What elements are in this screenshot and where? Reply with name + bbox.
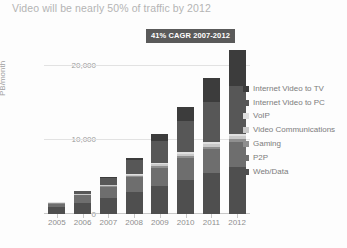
bar-segment[interactable]	[177, 107, 194, 121]
legend-item[interactable]: Gaming	[243, 137, 347, 151]
stacked-bar[interactable]	[126, 158, 143, 214]
bar-segment[interactable]	[203, 102, 220, 142]
y-axis-title: PB/month	[0, 61, 7, 96]
bar-segment[interactable]	[126, 160, 143, 173]
bar-segment[interactable]	[100, 178, 117, 185]
legend-item[interactable]: Web/Data	[243, 165, 347, 179]
legend-label: Internet Video to PC	[253, 99, 325, 107]
legend-item[interactable]: P2P	[243, 151, 347, 165]
legend-item[interactable]: Internet Video to TV	[243, 82, 347, 96]
x-axis-tick-label: 2008	[121, 218, 147, 232]
bar-slot-2010[interactable]	[173, 50, 199, 214]
bar-segment[interactable]	[177, 158, 194, 180]
x-axis-tick-label: 2011	[199, 218, 225, 232]
bar-segment[interactable]	[177, 180, 194, 214]
legend-swatch-icon	[243, 86, 249, 92]
bar-segment[interactable]	[203, 78, 220, 102]
bar-segment[interactable]	[74, 195, 91, 202]
bar-series-group	[44, 50, 250, 214]
chart-container: Video will be nearly 50% of traffic by 2…	[0, 0, 347, 248]
bar-segment[interactable]	[151, 168, 168, 187]
bar-slot-2007[interactable]	[96, 50, 122, 214]
legend-swatch-icon	[243, 113, 249, 119]
bar-slot-2009[interactable]	[147, 50, 173, 214]
legend-swatch-icon	[243, 127, 249, 133]
bar-segment[interactable]	[177, 121, 194, 152]
legend-swatch-icon	[243, 100, 249, 106]
bar-slot-2006[interactable]	[70, 50, 96, 214]
bar-slot-2005[interactable]	[44, 50, 70, 214]
legend-label: P2P	[253, 154, 268, 162]
stacked-bar[interactable]	[203, 78, 220, 214]
stacked-bar[interactable]	[100, 177, 117, 214]
legend-label: Video Communications	[253, 126, 335, 134]
bar-segment[interactable]	[151, 141, 168, 163]
x-axis-tick-label: 2006	[70, 218, 96, 232]
bar-slot-2008[interactable]	[121, 50, 147, 214]
stacked-bar[interactable]	[48, 202, 65, 214]
bar-segment[interactable]	[126, 192, 143, 214]
chart-legend: Internet Video to TVInternet Video to PC…	[243, 82, 347, 179]
bar-segment[interactable]	[229, 50, 246, 87]
bar-segment[interactable]	[74, 203, 91, 214]
cagr-annotation-badge: 41% CAGR 2007-2012	[146, 29, 235, 43]
bar-segment[interactable]	[48, 207, 65, 214]
bar-segment[interactable]	[151, 134, 168, 141]
plot-area	[44, 50, 250, 214]
legend-label: Internet Video to TV	[253, 85, 324, 93]
legend-label: VoIP	[253, 112, 270, 120]
bar-segment[interactable]	[203, 149, 220, 173]
x-axis-tick-label: 2010	[173, 218, 199, 232]
x-axis-tick-label: 2005	[44, 218, 70, 232]
chart-title: Video will be nearly 50% of traffic by 2…	[12, 2, 211, 14]
bar-slot-2011[interactable]	[199, 50, 225, 214]
legend-swatch-icon	[243, 169, 249, 175]
bar-segment[interactable]	[100, 198, 117, 214]
x-axis-tick-label: 2007	[96, 218, 122, 232]
bar-segment[interactable]	[203, 173, 220, 214]
bar-segment[interactable]	[126, 177, 143, 192]
bar-segment[interactable]	[151, 186, 168, 214]
x-axis-tick-labels: 20052006200720082009201020112012	[44, 218, 250, 232]
legend-label: Web/Data	[253, 168, 288, 176]
stacked-bar[interactable]	[177, 107, 194, 214]
legend-swatch-icon	[243, 141, 249, 147]
legend-label: Gaming	[253, 140, 281, 148]
legend-item[interactable]: Video Communications	[243, 123, 347, 137]
legend-swatch-icon	[243, 155, 249, 161]
legend-item[interactable]: VoIP	[243, 110, 347, 124]
stacked-bar[interactable]	[74, 191, 91, 214]
x-axis-tick-label: 2009	[147, 218, 173, 232]
bar-segment[interactable]	[100, 187, 117, 198]
stacked-bar[interactable]	[151, 134, 168, 214]
legend-item[interactable]: Internet Video to PC	[243, 96, 347, 110]
x-axis-tick-label: 2012	[224, 218, 250, 232]
